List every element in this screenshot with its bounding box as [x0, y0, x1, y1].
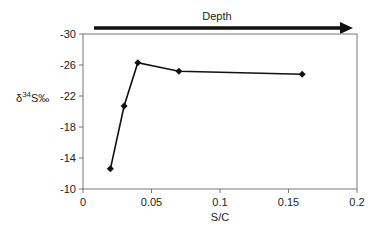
data-series	[107, 59, 306, 172]
y-tick-label: -14	[60, 152, 76, 164]
x-tick-label: 0.15	[278, 196, 299, 208]
x-axis-title: S/C	[211, 211, 229, 223]
depth-arrow	[94, 22, 353, 34]
diamond-marker-icon	[134, 59, 141, 66]
y-tick-label: -10	[60, 183, 76, 195]
depth-annotation: Depth	[202, 10, 231, 22]
y-tick-label: -26	[60, 59, 76, 71]
x-tick-label: 0.1	[212, 196, 227, 208]
x-axis: 00.050.10.150.2	[80, 189, 365, 208]
x-tick-label: 0	[80, 196, 86, 208]
chart: Depth -30-26-22-18-14-10 00.050.10.150.2…	[0, 0, 383, 240]
x-tick-label: 0.2	[349, 196, 364, 208]
y-axis-title: δ34S‰	[16, 90, 49, 104]
diamond-marker-icon	[121, 103, 128, 110]
series-line	[110, 63, 302, 169]
x-tick-label: 0.05	[141, 196, 162, 208]
diamond-marker-icon	[175, 68, 182, 75]
diamond-marker-icon	[107, 165, 114, 172]
y-axis: -30-26-22-18-14-10	[60, 28, 83, 195]
plot-frame	[83, 34, 357, 189]
y-tick-label: -22	[60, 90, 76, 102]
y-tick-label: -30	[60, 28, 76, 40]
y-tick-label: -18	[60, 121, 76, 133]
diamond-marker-icon	[299, 71, 306, 78]
